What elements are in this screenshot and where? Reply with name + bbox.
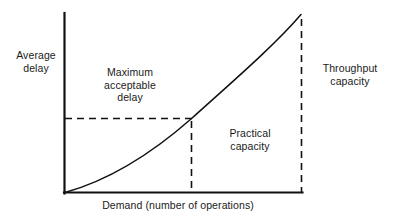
- practical-capacity-label-line-1: Practical: [212, 127, 288, 140]
- average-delay-curve: [65, 15, 301, 193]
- y-axis-label-line-2: delay: [8, 62, 64, 75]
- y-axis-label: Average delay: [8, 49, 64, 74]
- practical-capacity-label: Practical capacity: [212, 127, 288, 152]
- maximum-acceptable-delay-label-line-2: acceptable: [92, 79, 168, 92]
- throughput-capacity-label-line-2: capacity: [310, 75, 390, 88]
- diagram-canvas: [0, 0, 394, 224]
- y-axis-label-line-1: Average: [8, 49, 64, 62]
- throughput-capacity-label-line-1: Throughput: [310, 62, 390, 75]
- maximum-acceptable-delay-label: Maximum acceptable delay: [92, 66, 168, 104]
- throughput-capacity-label: Throughput capacity: [310, 62, 390, 87]
- maximum-acceptable-delay-label-line-3: delay: [92, 91, 168, 104]
- capacity-delay-diagram: Average delay Maximum acceptable delay T…: [0, 0, 394, 224]
- practical-capacity-label-line-2: capacity: [212, 140, 288, 153]
- maximum-acceptable-delay-label-line-1: Maximum: [92, 66, 168, 79]
- x-axis-label: Demand (number of operations): [78, 199, 278, 212]
